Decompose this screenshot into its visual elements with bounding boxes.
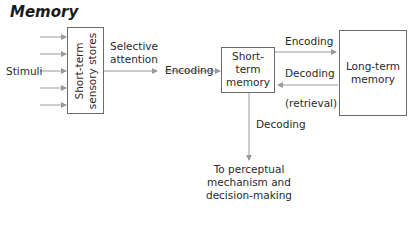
sensory-stores-box: Short-term sensory stores — [67, 27, 104, 114]
encoding-label-1: Encoding — [165, 64, 213, 77]
encoding-label-2: Encoding — [285, 35, 333, 48]
output-label: To perceptual mechanism and decision-mak… — [199, 163, 299, 202]
stimuli-label: Stimuli — [6, 65, 42, 78]
short-term-memory-label: Short- term memory — [221, 50, 275, 89]
long-term-memory-label: Long-term memory — [339, 60, 407, 86]
sensory-stores-label: Short-term sensory stores — [73, 30, 99, 112]
selective-attention-label: Selective attention — [110, 40, 158, 66]
retrieval-label: (retrieval) — [285, 97, 337, 110]
decoding-output-label: Decoding — [256, 118, 306, 131]
decoding-ltm-label: Decoding — [285, 67, 335, 80]
